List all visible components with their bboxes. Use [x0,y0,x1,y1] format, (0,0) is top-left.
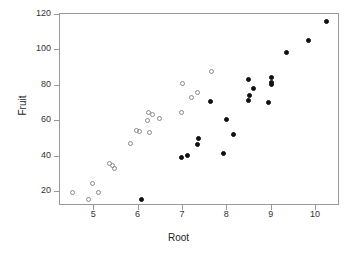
y-axis-title: Fruit [17,76,28,136]
data-point-filled [231,132,236,137]
y-tick-label: 60 [41,114,51,124]
data-point-filled [269,82,274,87]
y-tick-label: 80 [41,79,51,89]
y-tick-mark [54,120,59,121]
x-tick-label: 6 [118,209,158,219]
y-tick-label: 20 [41,185,51,195]
x-tick-label: 8 [206,209,246,219]
data-point-filled [284,50,289,55]
data-point-open [112,166,117,171]
y-tick-label: 40 [41,150,51,160]
y-tick-mark [54,156,59,157]
x-tick-label: 5 [73,209,113,219]
x-tick-label: 10 [295,209,335,219]
y-tick-mark [54,191,59,192]
y-tick-label: 120 [36,8,51,18]
data-point-open [157,116,162,121]
data-point-open [150,112,155,117]
data-point-open [70,190,75,195]
data-point-filled [195,142,200,147]
scatter-plot: 20406080100120 5678910 Root Fruit [0,0,357,253]
y-tick-mark [54,49,59,50]
data-point-filled [266,100,271,105]
data-point-filled [221,151,226,156]
data-point-filled [224,117,229,122]
data-point-open [96,190,101,195]
x-tick-label: 7 [162,209,202,219]
y-tick-mark [54,85,59,86]
x-tick-label: 9 [251,209,291,219]
data-point-open [189,95,194,100]
y-tick-label: 100 [36,43,51,53]
data-point-open [179,110,184,115]
plot-frame [59,13,339,205]
y-tick-mark [54,14,59,15]
x-axis-title: Root [0,232,357,243]
